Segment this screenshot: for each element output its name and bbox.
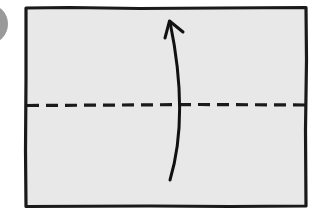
step-marker-circle: [0, 4, 8, 44]
fold-line-dashed: [27, 105, 305, 106]
origami-fold-diagram: [0, 0, 313, 213]
